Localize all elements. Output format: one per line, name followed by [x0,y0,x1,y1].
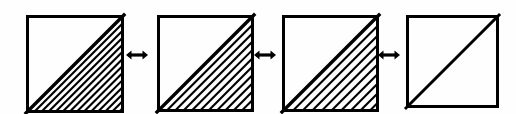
arrow-2 [254,48,276,62]
hatch-fill [33,22,128,113]
arrow-head-left-icon [378,50,384,59]
square-diagonal [406,15,499,108]
arrow-head-right-icon [395,50,401,59]
figure-canvas [0,0,516,114]
square-3 [278,11,383,114]
square-2 [153,11,258,114]
square-4 [402,11,503,112]
arrow-3 [378,48,400,62]
arrow-head-left-icon [126,50,132,59]
arrow-head-right-icon [271,50,277,59]
arrow-head-right-icon [143,50,149,59]
hatch-fill [165,23,258,112]
arrow-head-left-icon [254,50,260,59]
square-1 [22,11,128,114]
hatch-fill [292,25,383,112]
arrow-1 [126,48,148,62]
